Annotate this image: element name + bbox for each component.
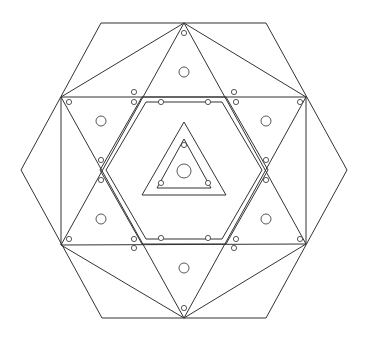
small-hole-icon — [131, 99, 136, 104]
small-hole-icon — [181, 142, 186, 147]
small-hole-icon — [131, 245, 136, 250]
small-hole-icon — [98, 177, 103, 182]
small-hole-icon — [98, 157, 103, 162]
small-hole-icon — [181, 30, 186, 35]
diag-top-right — [184, 23, 306, 97]
small-hole-icon — [158, 235, 163, 240]
large-hole-icon — [96, 116, 106, 126]
small-hole-icon — [158, 99, 163, 104]
star-triangle-down — [61, 97, 306, 318]
center-triangle-outer — [142, 122, 226, 195]
small-hole-icon — [233, 99, 238, 104]
large-hole-icon — [96, 214, 106, 224]
diag-top-left — [61, 23, 184, 97]
small-hole-icon — [205, 235, 210, 240]
small-hole-icon — [263, 177, 268, 182]
large-hole-icon — [179, 67, 189, 77]
small-hole-icon — [297, 236, 302, 241]
large-hole-icon — [179, 263, 189, 273]
large-hole-icon — [261, 116, 271, 126]
small-hole-icon — [66, 99, 71, 104]
small-hole-icon — [66, 236, 71, 241]
star-triangle-up — [61, 23, 306, 245]
diag-bottom-left — [61, 245, 184, 318]
small-hole-icon — [205, 99, 210, 104]
small-hole-icon — [231, 89, 236, 94]
small-hole-icon — [297, 99, 302, 104]
large-hole-icon — [261, 214, 271, 224]
small-hole-icon — [131, 236, 136, 241]
small-hole-icon — [158, 180, 163, 185]
center-hole-icon — [177, 164, 191, 178]
small-hole-icon — [231, 245, 236, 250]
hexagram-diagram — [0, 0, 370, 346]
small-hole-icon — [131, 89, 136, 94]
small-hole-icon — [263, 157, 268, 162]
small-hole-icon — [205, 180, 210, 185]
small-hole-icon — [233, 236, 238, 241]
diag-bottom-right — [184, 244, 306, 318]
small-hole-icon — [181, 305, 186, 310]
